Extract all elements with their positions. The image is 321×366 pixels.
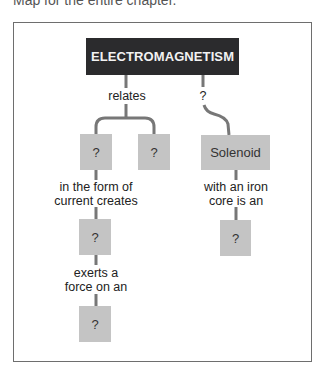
link-label-line-2: force on an [56, 280, 136, 294]
node-solenoid: Solenoid [201, 135, 270, 170]
link-label-in-form-of-current: in the form of current creates [46, 180, 146, 208]
link-label-exerts-force: exerts a force on an [56, 266, 136, 294]
node-unknown-right-d: ? [220, 220, 251, 256]
link-label-unknown: ? [197, 89, 209, 103]
root-node-electromagnetism: ELECTROMAGNETISM [86, 38, 239, 75]
node-unknown-left-a: ? [80, 134, 112, 170]
node-unknown-left-c: ? [79, 219, 111, 255]
link-label-line-1: exerts a [56, 266, 136, 280]
node-unknown-left-b: ? [138, 134, 170, 170]
link-label-line-2: current creates [46, 194, 146, 208]
node-unknown-left-d: ? [79, 306, 111, 342]
link-label-iron-core: with an iron core is an [196, 180, 276, 208]
link-label-line-2: core is an [196, 194, 276, 208]
link-label-line-1: with an iron [196, 180, 276, 194]
link-label-relates: relates [104, 89, 150, 103]
link-label-line-1: in the form of [46, 180, 146, 194]
